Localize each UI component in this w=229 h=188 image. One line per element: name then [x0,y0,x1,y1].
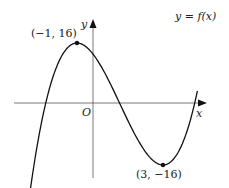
x-axis-label: x [196,107,203,120]
max-point-marker [75,41,79,45]
x-axis-arrow-icon [198,100,207,107]
y-axis-label: y [80,18,88,31]
y-axis-arrow-icon [90,19,97,28]
max-point-label: (−1, 16) [31,27,77,40]
min-point-label: (3, −16) [136,168,182,181]
origin-label: O [82,106,91,119]
min-point-marker [161,163,165,167]
function-graph: (−1, 16) (3, −16) y = f(x) y x O [0,0,229,188]
function-curve [26,43,197,188]
function-label: y = f(x) [174,10,216,23]
